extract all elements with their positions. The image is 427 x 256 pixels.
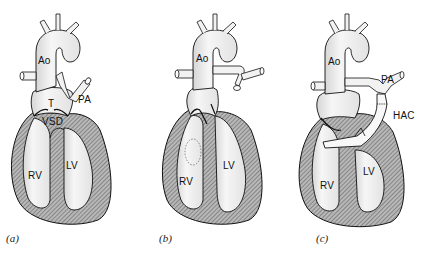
label-lv: LV — [363, 166, 375, 177]
pulmonary-artery — [345, 72, 403, 94]
caption-b: (b) — [159, 232, 172, 244]
label-t: T — [48, 98, 54, 109]
label-vsd: VSD — [42, 116, 63, 127]
label-ao: Ao — [38, 55, 51, 66]
label-lv: LV — [223, 160, 235, 171]
panel-a: Ao PA T VSD RV LV (a) — [0, 0, 142, 256]
panel-c: Ao PA HAC RV LV (c) — [285, 0, 427, 256]
caption-a: (a) — [6, 232, 19, 244]
label-rv: RV — [28, 170, 42, 181]
label-rv: RV — [179, 176, 193, 187]
heart-diagram-c — [285, 0, 427, 256]
label-pa: PA — [78, 94, 91, 105]
panel-b: Ao RV LV (b) — [145, 0, 287, 256]
label-hac: HAC — [393, 110, 415, 121]
label-ao: Ao — [328, 56, 341, 67]
label-rv: RV — [320, 180, 334, 191]
caption-c: (c) — [316, 232, 328, 244]
heart-diagram-b — [145, 0, 287, 256]
label-pa: PA — [381, 74, 394, 85]
heart-diagram-a — [0, 0, 142, 256]
label-ao: Ao — [196, 53, 209, 64]
outflow — [317, 90, 360, 120]
label-lv: LV — [66, 160, 78, 171]
pulmonary-branches — [213, 66, 244, 86]
